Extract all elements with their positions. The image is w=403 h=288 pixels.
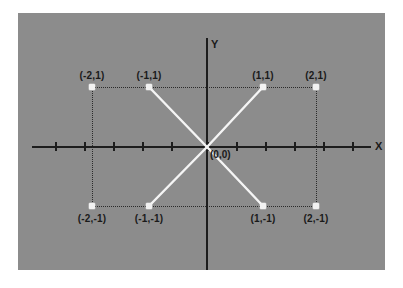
- x-axis-tick: [265, 142, 267, 151]
- point-label: (-2,1): [79, 70, 104, 81]
- point-label: (-2,-1): [78, 213, 107, 224]
- x-axis-tick: [323, 142, 325, 151]
- origin-label: (0,0): [210, 149, 231, 160]
- x-axis-tick: [113, 142, 115, 151]
- diagonal-segment: [207, 87, 263, 147]
- y-axis-label: Y: [211, 38, 219, 50]
- plot-panel: (-2,1)(-1,1)(1,1)(2,1)(-2,-1)(-1,-1)(1,-…: [18, 13, 385, 270]
- x-axis-tick: [294, 142, 296, 151]
- diagonal-segment: [149, 147, 207, 206]
- point-label: (1,-1): [250, 213, 275, 224]
- y-axis-line: [206, 38, 208, 270]
- point-label: (2,-1): [303, 213, 328, 224]
- x-axis-tick: [236, 142, 238, 151]
- point-marker: [146, 203, 152, 209]
- guide-line-top: [92, 87, 316, 88]
- x-axis-tick: [84, 142, 86, 151]
- guide-line-bottom: [92, 206, 316, 207]
- point-label: (2,1): [305, 70, 327, 81]
- x-axis-tick: [207, 142, 209, 151]
- x-axis-tick: [171, 142, 173, 151]
- point-marker: [146, 84, 152, 90]
- x-axis-label: X: [375, 140, 383, 152]
- point-marker: [260, 203, 266, 209]
- x-axis-tick: [142, 142, 144, 151]
- x-axis-line: [32, 146, 371, 148]
- point-marker: [89, 203, 95, 209]
- figure-root: (-2,1)(-1,1)(1,1)(2,1)(-2,-1)(-1,-1)(1,-…: [0, 0, 403, 288]
- point-label: (-1,-1): [135, 213, 164, 224]
- point-marker: [313, 84, 319, 90]
- point-marker: [313, 203, 319, 209]
- x-axis-tick: [352, 142, 354, 151]
- x-axis-tick: [55, 142, 57, 151]
- point-label: (-1,1): [136, 70, 161, 81]
- diagonal-segment: [149, 87, 207, 147]
- point-marker: [260, 84, 266, 90]
- point-label: (1,1): [252, 70, 274, 81]
- point-marker: [89, 84, 95, 90]
- diagonal-segments: [18, 13, 385, 270]
